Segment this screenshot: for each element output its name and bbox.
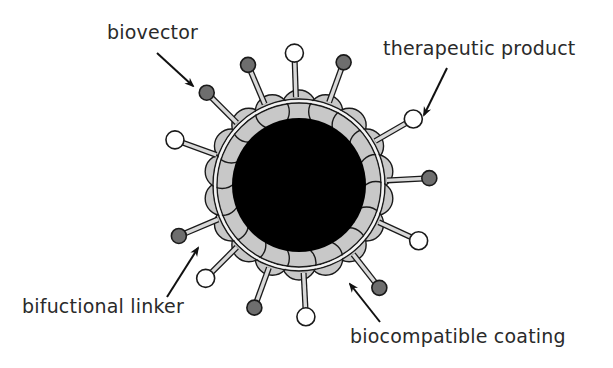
nanoparticle-core (232, 118, 366, 252)
biovector-arrow-icon (157, 53, 193, 86)
nanoparticle-diagram: biovector therapeutic product bifuctiona… (0, 0, 613, 368)
biovector-ball (372, 280, 387, 295)
bifunctional-linker (182, 142, 217, 155)
biovector-ball (199, 85, 214, 100)
biovector-ligand (171, 219, 218, 243)
biovector-ligand (241, 57, 265, 104)
biovector-ligand (199, 85, 237, 123)
biovector-ligand (387, 171, 437, 186)
biovector-label: biovector (107, 21, 198, 43)
bifunctional-linker (379, 222, 413, 238)
therapeutic-ball (197, 269, 215, 287)
bifunctional-linker (387, 178, 424, 180)
biovector-ball (336, 55, 351, 70)
therapeutic-ball (404, 110, 422, 128)
bifunctional-linker-arrow-icon (167, 248, 198, 297)
biovector-ball (171, 228, 186, 243)
bifunctional-linker (375, 123, 407, 142)
bifunctional-linker (184, 219, 218, 233)
biocompatible-coating-label: biocompatible coating (350, 325, 566, 347)
therapeutic-product-ligand (197, 247, 237, 287)
therapeutic-ball (410, 232, 428, 250)
bifunctional-linker (304, 273, 306, 310)
therapeutic-ball (297, 308, 315, 326)
biovector-ligand (329, 55, 351, 102)
therapeutic-product-arrow-icon (424, 68, 447, 115)
therapeutic-product-ligand (297, 273, 315, 326)
therapeutic-ball (285, 44, 303, 62)
bifunctional-linker (211, 97, 237, 123)
biovector-ball (422, 171, 437, 186)
bifunctional-linker (295, 60, 296, 97)
bifunctional-linker-label: bifuctional linker (22, 295, 184, 317)
biovector-ligand (353, 254, 387, 295)
therapeutic-product-ligand (285, 44, 303, 97)
biovector-ball (241, 57, 256, 72)
biovector-ball (247, 300, 262, 315)
therapeutic-product-ligand (166, 131, 216, 155)
biovector-ligand (247, 268, 269, 315)
bifunctional-linker (250, 70, 264, 104)
therapeutic-product-label: therapeutic product (383, 37, 576, 59)
bifunctional-linker (211, 247, 237, 273)
therapeutic-ball (166, 131, 184, 149)
iron-oxide-core (232, 118, 366, 252)
bifunctional-linker (353, 254, 376, 283)
therapeutic-product-ligand (375, 110, 422, 141)
therapeutic-product-ligand (379, 222, 428, 250)
